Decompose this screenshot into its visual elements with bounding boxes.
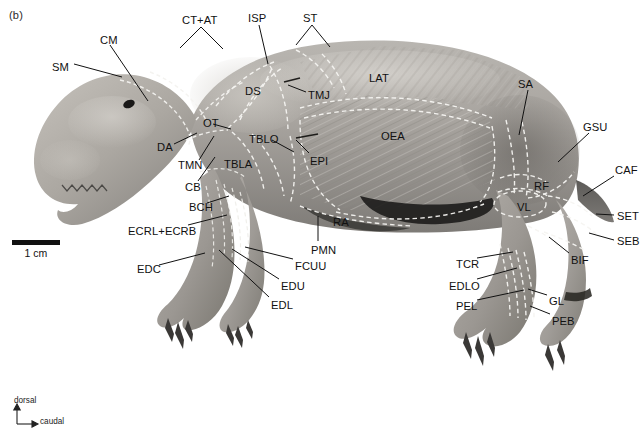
label-cb: CB	[185, 182, 201, 193]
label-edu: EDU	[281, 281, 305, 292]
label-da: DA	[157, 142, 173, 153]
label-ra: RA	[333, 217, 349, 228]
label-bch: BCH	[189, 202, 213, 213]
label-tblo: TBLO	[249, 134, 279, 145]
label-lat: LAT	[369, 73, 389, 84]
label-bif: BIF	[571, 255, 589, 266]
label-gl: GL	[549, 296, 564, 307]
label-sa: SA	[518, 79, 533, 90]
label-rf: RF	[534, 181, 549, 192]
jaw-highlight	[40, 140, 100, 180]
label-pmn: PMN	[311, 245, 336, 256]
orientation-compass: dorsal caudal	[6, 396, 102, 430]
label-vl: VL	[517, 202, 531, 213]
label-edlo: EDLO	[449, 281, 480, 292]
label-edl: EDL	[271, 300, 293, 311]
label-peb: PEB	[552, 316, 575, 327]
label-set: SET	[617, 211, 639, 222]
label-tcr: TCR	[456, 259, 479, 270]
label-isp: ISP	[248, 13, 266, 24]
label-sm: SM	[52, 62, 69, 73]
label-ct-plus-at: CT+AT	[182, 15, 217, 26]
label-tmj: TMJ	[308, 90, 330, 101]
label-seb: SEB	[617, 236, 640, 247]
label-caf: CAF	[615, 165, 638, 176]
tail-base	[576, 180, 614, 222]
label-fcuu: FCUU	[295, 261, 326, 272]
label-tbla: TBLA	[224, 159, 252, 170]
figure-panel: (b)	[0, 0, 641, 433]
label-epi: EPI	[310, 156, 328, 167]
label-ot: OT	[203, 118, 219, 129]
cheek-highlight	[68, 96, 156, 148]
label-st: ST	[303, 13, 318, 24]
label-gsu: GSU	[583, 122, 608, 133]
label-ecrl-plus-ecrb: ECRL+ECRB	[128, 226, 196, 237]
scale-bar-rule	[12, 240, 60, 245]
forefoot-left-claws	[165, 318, 193, 349]
scale-bar-label: 1 cm	[12, 247, 60, 259]
label-pel: PEL	[456, 301, 477, 312]
label-ds: DS	[245, 86, 261, 97]
specimen-photograph	[0, 0, 641, 433]
label-cm: CM	[100, 35, 118, 46]
orientation-arrows	[6, 396, 102, 430]
label-edc: EDC	[137, 264, 161, 275]
label-tmn: TMN	[178, 160, 203, 171]
label-oea: OEA	[381, 131, 405, 142]
scale-bar: 1 cm	[12, 240, 60, 259]
